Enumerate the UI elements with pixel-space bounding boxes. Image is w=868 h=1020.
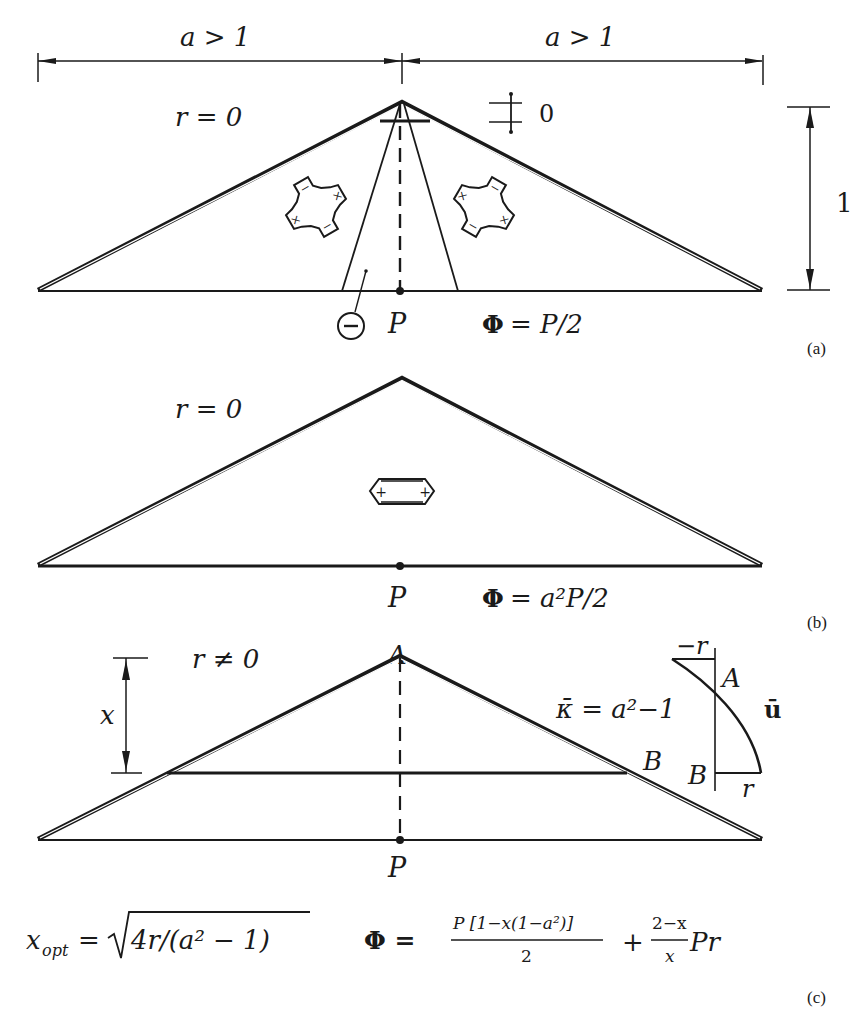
moment-cell-positive-icon: + + [370,479,434,504]
diagram-top-value: −r [676,632,709,660]
load-label: P [387,852,407,883]
x-label: x [100,700,115,730]
diagram-top-point: A [720,663,741,693]
result-rhs: = P/2 [510,309,583,339]
result-lhs: Φ [482,584,504,613]
width-dimension: a > 1 a > 1 [38,22,763,85]
svg-text:2−x: 2−x [652,913,687,933]
svg-text:+: + [375,484,387,500]
arrowhead-icon [384,58,402,64]
dimension-right-label: a > 1 [545,22,615,52]
panel-b: r = 0 + + P Φ = a²P/2 (b) [38,378,827,632]
height-label: 1 [836,188,853,218]
condition-label: r = 0 [175,102,242,132]
panel-a: a > 1 a > 1 1 r = 0 0 [38,22,853,358]
optimum-formula: x opt = 4r/(a² − 1) [26,912,310,960]
arrowhead-icon [38,58,56,64]
x-dimension: x [100,658,148,773]
svg-text:2: 2 [521,946,532,966]
arrowhead-icon [122,751,130,771]
moment-cell-left-icon: × − × − [275,166,357,248]
panel-c: A r ≠ 0 x B κ̄ = a²−1 [26,632,826,1007]
caption-c: (c) [807,988,826,1007]
load-point-icon [396,562,404,570]
caption-b: (b) [807,613,827,632]
objective-formula: Φ = P [1−x(1−a²)] 2 + 2−x x Pr [364,913,721,966]
condition-label: r = 0 [175,394,242,424]
load-label: P [387,582,407,613]
arrowhead-icon [122,660,130,680]
negative-region-marker [338,269,368,339]
result-lhs: Φ [482,310,504,339]
truss-b [38,378,762,570]
load-label: P [387,308,407,339]
tie-end-label: B [642,746,662,776]
zero-moment-label: 0 [539,100,554,128]
svg-text:P [1−x(1−a²)]: P [1−x(1−a²)] [452,913,573,933]
svg-text:Pr: Pr [689,927,721,957]
result-rhs: = a²P/2 [510,583,609,613]
displacement-label: ū [764,695,781,724]
truss-a [38,102,762,295]
svg-text:Φ =: Φ = [364,926,415,955]
arrowhead-icon [745,58,763,64]
arrowhead-icon [806,108,814,128]
displacement-diagram: −r A B r ū [672,632,781,803]
svg-text:+: + [419,484,431,500]
svg-text:opt: opt [42,941,69,960]
svg-text:x: x [665,946,675,966]
dimension-left-label: a > 1 [180,22,250,52]
svg-text:+: + [622,927,644,957]
diagram-bottom-value: r [742,775,755,803]
height-dimension: 1 [787,107,853,290]
svg-text:x: x [26,925,41,955]
moment-cell-right-icon: − × × − [443,166,525,248]
arrowhead-icon [806,269,814,289]
condition-label: r ≠ 0 [192,644,259,674]
arrowhead-icon [402,58,420,64]
zero-moment-symbol: 0 [489,92,554,134]
truss-optimization-diagram: a > 1 a > 1 1 r = 0 0 [0,0,868,1020]
curvature-label: κ̄ = a²−1 [555,694,676,724]
svg-text:4r/(a² − 1): 4r/(a² − 1) [130,925,270,955]
load-point-icon [396,836,404,844]
caption-a: (a) [807,339,826,358]
load-point-icon [396,287,404,295]
svg-text:=: = [78,925,100,955]
diagram-bottom-point: B [687,760,707,790]
apex-label: A [386,640,407,670]
